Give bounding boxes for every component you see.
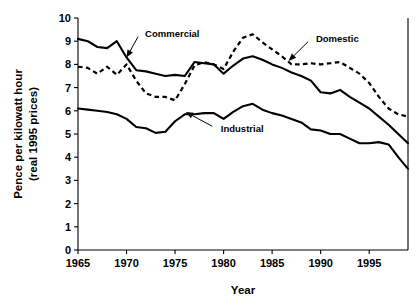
y-tick-label: 9 <box>65 35 71 47</box>
chart-canvas: 012345678910 196519701975198019851990199… <box>0 0 417 306</box>
annotation-leader-line <box>191 115 212 126</box>
x-axis-ticks: 1965197019751980198519901995 <box>66 250 382 269</box>
series-annotations-group: CommercialDomesticIndustrial <box>127 28 359 134</box>
y-tick-label: 8 <box>65 58 71 70</box>
y-tick-label: 7 <box>65 82 71 94</box>
x-tick-label: 1990 <box>308 257 332 269</box>
annotation-commercial: Commercial <box>127 28 200 58</box>
electricity-price-chart: 012345678910 196519701975198019851990199… <box>0 0 417 306</box>
annotation-industrial: Industrial <box>186 112 264 134</box>
x-tick-label: 1975 <box>163 257 187 269</box>
y-tick-label: 2 <box>65 198 71 210</box>
y-tick-label: 1 <box>65 221 71 233</box>
x-axis-title: Year <box>231 284 256 296</box>
y-axis-ticks: 012345678910 <box>59 12 78 256</box>
y-tick-label: 0 <box>65 244 71 256</box>
annotation-leader-line <box>129 37 138 53</box>
annotation-arrow-head <box>127 49 133 57</box>
x-tick-label: 1980 <box>211 257 235 269</box>
annotation-leader-line <box>293 42 308 57</box>
y-axis-title-line2: (real 1995 prices) <box>27 87 39 181</box>
annotation-domestic: Domestic <box>289 33 359 61</box>
annotation-label: Industrial <box>221 123 264 134</box>
x-tick-label: 1970 <box>114 257 138 269</box>
y-tick-label: 5 <box>65 128 71 140</box>
x-tick-label: 1965 <box>66 257 90 269</box>
series-line-industrial <box>78 104 408 169</box>
y-axis-title-line1: Pence per kilowatt hour <box>12 69 24 199</box>
y-tick-label: 6 <box>65 105 71 117</box>
y-tick-label: 3 <box>65 174 71 186</box>
x-tick-label: 1995 <box>357 257 381 269</box>
series-line-domestic <box>78 34 408 116</box>
y-axis-title: Pence per kilowatt hour (real 1995 price… <box>12 69 39 199</box>
annotation-label: Domestic <box>316 33 359 44</box>
y-tick-label: 4 <box>65 151 72 163</box>
x-tick-label: 1985 <box>260 257 284 269</box>
y-tick-label: 10 <box>59 12 71 24</box>
annotation-label: Commercial <box>145 28 199 39</box>
